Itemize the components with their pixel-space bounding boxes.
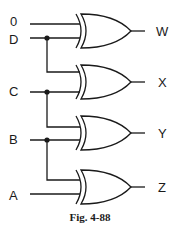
- junction-dot-d: [44, 35, 49, 40]
- wire-b-branch: [47, 140, 80, 180]
- xor-circuit-diagram: 0 D C B A: [0, 0, 179, 228]
- xor-gate-y: [76, 116, 145, 150]
- junction-dot-c: [44, 89, 49, 94]
- wire-c-branch: [47, 92, 80, 127]
- xor-gate-x: [76, 65, 145, 99]
- input-label-d: D: [9, 32, 18, 47]
- junction-dot-b: [44, 137, 49, 142]
- input-label-b: B: [9, 132, 18, 147]
- figure-caption: Fig. 4-88: [70, 211, 111, 223]
- input-label-a: A: [9, 188, 18, 203]
- wire-d-branch: [47, 38, 80, 72]
- output-label-z: Z: [158, 180, 166, 195]
- input-label-c: C: [9, 84, 18, 99]
- output-label-x: X: [158, 75, 167, 90]
- output-label-w: W: [156, 24, 169, 39]
- xor-gate-z: [76, 170, 145, 204]
- xor-gate-w: [76, 14, 145, 48]
- input-label-0: 0: [10, 14, 17, 29]
- wires: [30, 24, 80, 194]
- output-label-y: Y: [158, 126, 167, 141]
